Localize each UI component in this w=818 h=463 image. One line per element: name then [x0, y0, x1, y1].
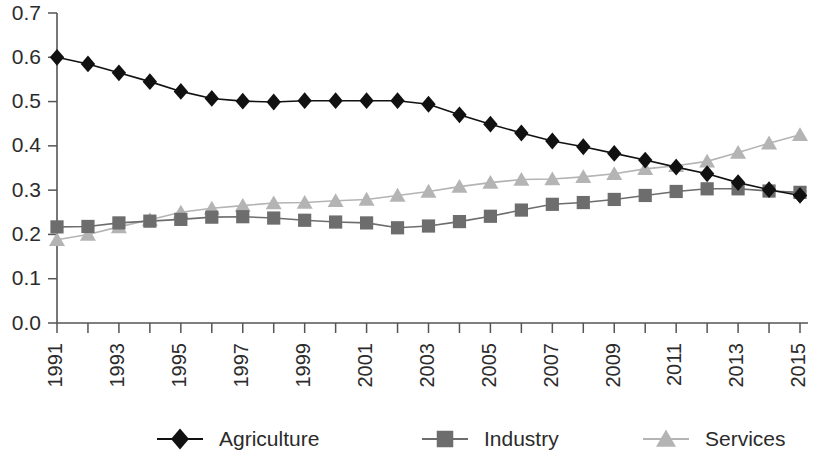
y-axis-tick-label: 0.1 — [12, 266, 41, 289]
data-point-square — [515, 203, 528, 216]
data-point-square — [577, 196, 590, 209]
data-point-square — [174, 213, 187, 226]
y-axis-tick-label: 0.3 — [12, 178, 41, 201]
y-axis-tick-label: 0.5 — [12, 89, 41, 112]
legend-label-agriculture: Agriculture — [219, 427, 319, 450]
data-point-square — [50, 220, 63, 233]
y-axis-tick-label: 0.2 — [12, 222, 41, 245]
square-icon — [437, 431, 454, 448]
data-point-square — [205, 211, 218, 224]
data-point-square — [143, 215, 156, 228]
y-axis-tick-label: 0.0 — [12, 311, 41, 334]
data-point-square — [329, 215, 342, 228]
x-axis-tick-label: 1997 — [230, 343, 252, 388]
x-axis-tick-label: 2011 — [663, 343, 685, 386]
data-point-square — [236, 210, 249, 223]
data-point-square — [670, 185, 683, 198]
x-axis-tick-label: 2007 — [540, 343, 562, 388]
y-axis-tick-label: 0.6 — [12, 45, 41, 68]
data-point-square — [701, 182, 714, 195]
legend-label-services: Services — [705, 427, 786, 450]
data-point-square — [112, 216, 125, 229]
data-point-square — [360, 216, 373, 229]
data-point-square — [453, 215, 466, 228]
line-chart: 0.00.10.20.30.40.50.60.7 199119931995199… — [0, 0, 818, 463]
data-point-square — [267, 211, 280, 224]
data-point-square — [484, 210, 497, 223]
chart-canvas: 0.00.10.20.30.40.50.60.7 199119931995199… — [0, 0, 818, 463]
legend-label-industry: Industry — [484, 427, 559, 450]
x-axis-tick-label: 2013 — [725, 343, 747, 388]
y-axis-tick-label: 0.4 — [12, 133, 42, 156]
x-axis-tick-label: 2003 — [416, 343, 438, 388]
data-point-square — [639, 189, 652, 202]
x-axis-tick-label: 1995 — [168, 343, 190, 388]
x-axis-tick-label: 1999 — [292, 343, 314, 388]
x-axis-tick-label: 2001 — [354, 343, 376, 388]
x-axis-tick-label: 2015 — [787, 343, 809, 388]
x-axis-tick-label: 1993 — [106, 343, 128, 388]
data-point-square — [391, 221, 404, 234]
data-point-square — [608, 193, 621, 206]
data-point-square — [546, 198, 559, 211]
data-point-square — [422, 219, 435, 232]
data-point-square — [81, 220, 94, 233]
x-axis-tick-label: 2005 — [478, 343, 500, 388]
data-point-square — [298, 214, 311, 227]
y-axis-tick-label: 0.7 — [12, 1, 41, 24]
x-axis-tick-label: 1991 — [44, 343, 66, 388]
x-axis-tick-label: 2009 — [602, 343, 624, 388]
